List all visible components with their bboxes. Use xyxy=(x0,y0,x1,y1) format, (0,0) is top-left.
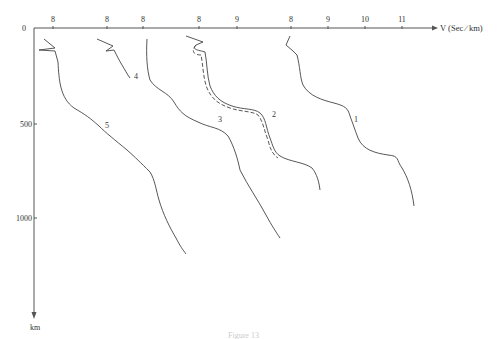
curve-1 xyxy=(286,36,414,206)
velocity-depth-chart: 88889891011 5001000 0 V (Sec ∕ km) km 12… xyxy=(0,0,502,339)
x-ticks: 88889891011 xyxy=(51,15,406,29)
x-tick-label: 8 xyxy=(289,15,293,24)
y-tick-label: 1000 xyxy=(16,214,32,223)
x-tick-label: 8 xyxy=(51,15,55,24)
curve-label-2: 2 xyxy=(272,110,276,119)
x-tick-label: 8 xyxy=(197,15,201,24)
origin-label: 0 xyxy=(22,24,26,33)
curve-label-1: 1 xyxy=(354,115,358,124)
y-axis-title: km xyxy=(30,323,41,332)
x-tick-label: 8 xyxy=(105,15,109,24)
x-axis-arrow-icon xyxy=(432,26,438,31)
figure-caption: Figure 13 xyxy=(228,331,259,339)
y-axis-arrow-icon xyxy=(32,312,37,319)
curve-label-3: 3 xyxy=(218,115,222,124)
y-tick-label: 500 xyxy=(20,120,32,129)
curve-label-5: 5 xyxy=(105,121,109,130)
x-tick-label: 9 xyxy=(326,15,330,24)
x-tick-label: 8 xyxy=(141,15,145,24)
curve-4 xyxy=(97,39,130,78)
curve-labels: 12345 xyxy=(105,72,358,130)
x-tick-label: 11 xyxy=(398,15,406,24)
curve-label-4: 4 xyxy=(134,72,138,81)
x-tick-label: 9 xyxy=(235,15,239,24)
curve-5 xyxy=(39,39,186,254)
x-axis-title: V (Sec ∕ km) xyxy=(440,23,483,33)
x-tick-label: 10 xyxy=(361,15,369,24)
curve-3 xyxy=(147,39,280,238)
